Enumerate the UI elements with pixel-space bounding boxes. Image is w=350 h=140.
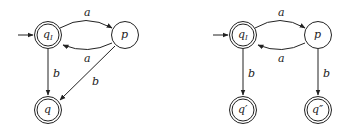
state-qI-right: qI <box>230 22 257 49</box>
state-p-left: p <box>112 22 139 49</box>
state-label-q-double-prime: q″ <box>312 103 324 116</box>
state-label-q: q <box>44 103 51 116</box>
state-p-right: p <box>305 22 332 49</box>
state-q-double-prime: q″ <box>305 97 332 124</box>
left-automaton: a a b b qI p q <box>18 6 139 124</box>
edge-label-a-bottom: a <box>84 52 91 65</box>
state-label-p-right: p <box>314 28 321 41</box>
edge-label-b-right-right: b <box>323 67 330 80</box>
right-automaton: a a b b qI p q′ q″ <box>213 6 332 124</box>
edge-label-a-bottom-right: a <box>278 52 285 65</box>
state-q-prime: q′ <box>230 97 257 124</box>
edge-p-qI-a <box>63 43 112 50</box>
edge-label-a-top-right: a <box>278 6 285 19</box>
edge-p-qI-a-right <box>258 43 305 50</box>
edge-label-b-vertical: b <box>53 67 60 80</box>
edge-qI-p-a-right <box>255 21 305 29</box>
edge-qI-p-a <box>60 21 112 29</box>
edge-label-b-left-right: b <box>248 67 255 80</box>
edge-label-a-top: a <box>84 6 91 19</box>
automata-figure: a a b b qI p q a <box>0 0 350 140</box>
state-qI-left: qI <box>35 22 62 49</box>
state-label-q-prime: q′ <box>238 103 248 116</box>
state-q-left: q <box>35 97 62 124</box>
edge-label-b-diagonal: b <box>92 75 99 88</box>
state-label-p: p <box>121 28 128 41</box>
